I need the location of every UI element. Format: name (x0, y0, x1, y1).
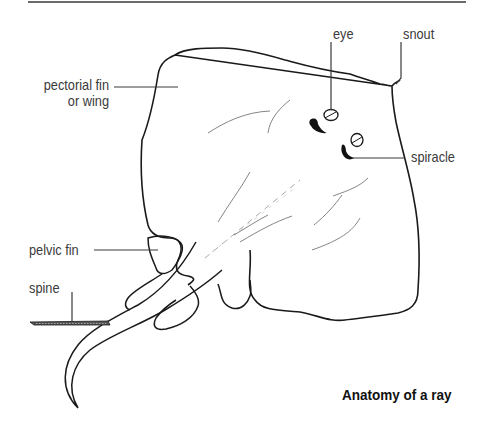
ray-illustration (0, 0, 495, 429)
spiracle-left (309, 119, 327, 134)
label-spine: spine (29, 280, 60, 296)
label-eye: eye (333, 26, 354, 42)
label-pelvic-fin: pelvic fin (29, 242, 79, 258)
figure-caption: Anatomy of a ray (342, 386, 452, 403)
spiracle-right (341, 144, 354, 159)
label-pectoral-line2: or wing (24, 93, 109, 109)
label-spiracle: spiracle (411, 149, 455, 165)
ray-fin-lines (208, 100, 368, 250)
spine-barb (30, 321, 110, 325)
eye-left (324, 110, 338, 121)
label-pectoral-line1: pectorial fin (24, 77, 109, 93)
clasper-right (218, 280, 251, 309)
eye-right (351, 134, 363, 147)
ray-body-outline (141, 48, 419, 320)
label-pectoral-fin: pectorial fin or wing (24, 77, 109, 109)
leader-lines (72, 42, 405, 322)
label-snout: snout (403, 26, 434, 42)
